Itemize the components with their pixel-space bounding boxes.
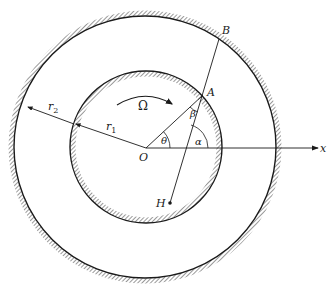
inner-circle-wall	[70, 71, 222, 223]
label-B: B	[221, 24, 230, 37]
annulus-diagram: B A O H x r1 r2 Ω θ β α	[0, 0, 330, 292]
label-A: A	[206, 86, 215, 99]
label-r2: r2	[48, 100, 58, 115]
label-r1: r1	[106, 120, 116, 135]
label-O: O	[139, 151, 148, 164]
outer-circle-wall	[11, 13, 279, 281]
label-H: H	[155, 197, 166, 210]
point-H	[168, 201, 172, 205]
label-theta: θ	[161, 135, 167, 146]
label-x: x	[320, 142, 327, 155]
label-Omega: Ω	[138, 99, 148, 113]
label-alpha: α	[195, 136, 202, 147]
label-beta: β	[189, 108, 196, 119]
